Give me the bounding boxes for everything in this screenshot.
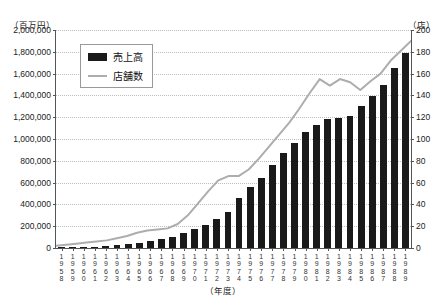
x-axis-tick-label: 1965	[135, 253, 144, 283]
x-axis-tick-label: 1974	[235, 253, 244, 283]
left-axis-tick-label: 600,000	[20, 178, 51, 187]
bar	[269, 165, 276, 248]
left-axis-tick-label: 1,000,000	[13, 135, 51, 144]
x-axis-tick-mark	[250, 248, 251, 251]
right-axis-tick-label: 160	[416, 69, 430, 78]
x-axis-tick-label: 1969	[179, 253, 188, 283]
x-axis-tick-mark	[106, 248, 107, 251]
x-axis-tick-mark	[62, 248, 63, 251]
x-axis-tick-mark	[350, 248, 351, 251]
bar	[225, 212, 232, 248]
left-axis-tick-label: 1,600,000	[13, 69, 51, 78]
x-axis-tick-mark	[239, 248, 240, 251]
legend-item-label: 売上高	[113, 49, 143, 64]
x-axis-tick-label: 1972	[212, 253, 221, 283]
x-axis-tick-label: 1961	[90, 253, 99, 283]
x-axis-tick-mark	[184, 248, 185, 251]
legend: 売上高 店舗数	[80, 44, 153, 88]
x-axis-tick-label: 1981	[312, 253, 321, 283]
bar	[180, 233, 187, 248]
x-axis-tick-label: 1989	[401, 253, 410, 283]
bar	[258, 178, 265, 248]
bar	[302, 132, 309, 248]
x-axis-tick-mark	[328, 248, 329, 251]
x-axis-tick-label: 1959	[68, 253, 77, 283]
x-axis-tick-label: 1971	[201, 253, 210, 283]
left-axis-tick-mark	[53, 117, 56, 118]
chart-container: （百万円） （店） 0200,000400,000600,000800,0001…	[0, 0, 446, 299]
left-axis-tick-mark	[53, 74, 56, 75]
right-axis-tick-label: 140	[416, 91, 430, 100]
left-axis-tick-label: 200,000	[20, 222, 51, 231]
right-axis-tick-mark	[411, 248, 414, 249]
left-axis-tick-mark	[53, 139, 56, 140]
bar	[313, 125, 320, 248]
x-axis-tick-label: 1975	[246, 253, 255, 283]
x-axis-tick-mark	[128, 248, 129, 251]
right-axis-tick-label: 120	[416, 113, 430, 122]
x-axis-tick-label: 1983	[334, 253, 343, 283]
x-axis-tick-mark	[272, 248, 273, 251]
right-axis-tick-mark	[411, 139, 414, 140]
legend-item-sales: 売上高	[88, 49, 143, 64]
left-axis-tick-label: 1,200,000	[13, 113, 51, 122]
x-axis-tick-mark	[139, 248, 140, 251]
gridline	[56, 30, 411, 31]
left-axis-tick-label: 1,400,000	[13, 91, 51, 100]
x-axis-tick-label: 1966	[146, 253, 155, 283]
bar	[236, 198, 243, 248]
left-axis-tick-label: 1,800,000	[13, 48, 51, 57]
x-axis-tick-mark	[295, 248, 296, 251]
right-axis-tick-label: 0	[416, 244, 421, 253]
x-axis-tick-label: 1984	[345, 253, 354, 283]
x-axis-tick-mark	[283, 248, 284, 251]
left-axis-tick-mark	[53, 161, 56, 162]
left-axis-tick-label: 0	[46, 244, 51, 253]
left-axis-tick-mark	[53, 204, 56, 205]
x-axis-tick-mark	[306, 248, 307, 251]
legend-line-swatch-icon	[88, 75, 107, 77]
left-axis-tick-mark	[53, 248, 56, 249]
x-axis-tick-label: 1977	[268, 253, 277, 283]
x-axis-tick-label: 1968	[168, 253, 177, 283]
right-axis-tick-mark	[411, 95, 414, 96]
x-axis-tick-mark	[394, 248, 395, 251]
x-axis-tick-label: 1960	[79, 253, 88, 283]
x-axis-tick-mark	[372, 248, 373, 251]
bar	[358, 106, 365, 248]
bar	[213, 219, 220, 248]
left-axis-tick-mark	[53, 183, 56, 184]
x-axis-tick-mark	[361, 248, 362, 251]
bar	[202, 225, 209, 248]
left-axis-tick-label: 2,000,000	[13, 26, 51, 35]
right-axis-tick-mark	[411, 226, 414, 227]
bar	[347, 116, 354, 248]
left-axis-tick-mark	[53, 226, 56, 227]
x-axis-tick-label: 1985	[357, 253, 366, 283]
x-axis-tick-label: 1982	[323, 253, 332, 283]
x-axis-tick-label: 1964	[124, 253, 133, 283]
right-axis-tick-label: 80	[416, 157, 425, 166]
x-axis-tick-mark	[117, 248, 118, 251]
right-axis-tick-label: 100	[416, 135, 430, 144]
left-axis-tick-mark	[53, 30, 56, 31]
right-axis-tick-label: 40	[416, 200, 425, 209]
legend-bar-swatch-icon	[88, 53, 107, 61]
right-axis-tick-label: 60	[416, 178, 425, 187]
x-axis-tick-label: 1963	[113, 253, 122, 283]
bar	[391, 68, 398, 248]
bar	[380, 85, 387, 249]
left-axis-tick-mark	[53, 52, 56, 53]
right-axis-tick-mark	[411, 52, 414, 53]
x-axis-tick-mark	[195, 248, 196, 251]
x-axis-tick-mark	[150, 248, 151, 251]
bar	[280, 153, 287, 248]
x-axis-tick-label: 1973	[223, 253, 232, 283]
left-axis-tick-label: 800,000	[20, 157, 51, 166]
right-axis-tick-mark	[411, 183, 414, 184]
x-axis-tick-mark	[73, 248, 74, 251]
x-axis-tick-mark	[84, 248, 85, 251]
x-axis-tick-mark	[95, 248, 96, 251]
gridline	[56, 95, 411, 96]
x-axis-tick-label: 1976	[257, 253, 266, 283]
